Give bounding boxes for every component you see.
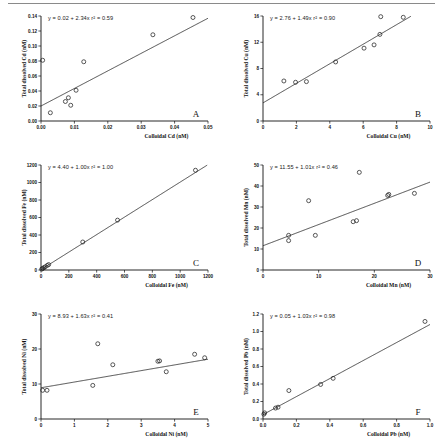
x-tick-label: 0.02 — [103, 125, 112, 130]
data-point — [287, 389, 291, 393]
panel-d: 010203040500102030y = 11.55 + 1.01x r² =… — [222, 149, 443, 298]
x-tick-label: 2 — [107, 423, 110, 428]
y-tick-label: 1.2 — [253, 312, 260, 317]
x-tick-label: 0.0 — [260, 423, 267, 428]
x-tick-label: 400 — [93, 274, 101, 279]
x-axis-title: Colloidal Ni (nM) — [145, 431, 187, 438]
y-tick-label: 0 — [256, 268, 259, 273]
regression-equation-label: y = 8.93 + 1.63x r² = 0.41 — [48, 313, 113, 319]
x-axis-title: Colloidal Mn (nM) — [366, 282, 411, 289]
x-tick-label: 0 — [40, 423, 43, 428]
x-tick-label: 4 — [173, 423, 176, 428]
y-axis-title: Total dissolved Cu (nM) — [243, 40, 250, 98]
y-tick-label: 16 — [254, 14, 260, 19]
scatter-plot-c: 0200400600800100012000200400600800100012… — [0, 149, 221, 298]
regression-equation-label: y = 11.55 + 1.01x r² = 0.46 — [270, 164, 338, 170]
data-point — [193, 168, 197, 172]
data-point — [307, 199, 311, 203]
y-tick-label: 12 — [254, 40, 260, 45]
panel-letter: E — [193, 407, 199, 417]
x-tick-label: 1200 — [203, 274, 214, 279]
data-point — [372, 43, 376, 47]
figure-container: 0.000.020.040.060.080.100.120.140.000.01… — [0, 0, 443, 448]
x-tick-label: 0.8 — [393, 423, 400, 428]
scatter-plot-d: 010203040500102030y = 11.55 + 1.01x r² =… — [222, 149, 443, 298]
y-tick-label: 0.10 — [28, 44, 37, 49]
x-tick-label: 0.4 — [327, 423, 334, 428]
regression-equation-label: y = 0.02 + 2.34x r² = 0.59 — [48, 15, 113, 21]
x-axis-title: Colloidal Cu (nM) — [367, 133, 411, 140]
y-tick-label: 0.6 — [253, 364, 260, 369]
panel-letter: D — [415, 258, 422, 268]
y-tick-label: 8 — [256, 66, 259, 71]
x-tick-label: 1000 — [175, 274, 186, 279]
y-tick-label: 0.00 — [28, 119, 37, 124]
data-point — [282, 79, 286, 83]
y-tick-label: 0.0 — [253, 417, 260, 422]
data-point — [313, 233, 317, 237]
y-tick-label: 800 — [29, 198, 37, 203]
axis-lines — [41, 314, 208, 419]
y-tick-label: 0.8 — [253, 347, 260, 352]
x-axis-title: Colloidal Fe (nM) — [145, 282, 188, 289]
axis-lines — [263, 165, 430, 270]
data-point — [304, 80, 308, 84]
x-tick-label: 3 — [140, 423, 143, 428]
x-tick-label: 1.0 — [427, 423, 434, 428]
x-tick-label: 5 — [207, 423, 210, 428]
x-tick-label: 20 — [372, 274, 378, 279]
regression-line — [263, 182, 430, 246]
x-tick-label: 10 — [427, 125, 433, 130]
data-point — [164, 370, 168, 374]
x-tick-label: 800 — [148, 274, 156, 279]
data-point — [412, 191, 416, 195]
regression-equation-label: y = 0.05 + 1.03x r² = 0.98 — [270, 313, 335, 319]
x-tick-label: 0.05 — [204, 125, 213, 130]
data-point — [357, 170, 361, 174]
data-point — [203, 356, 207, 360]
panel-letter: F — [415, 407, 420, 417]
x-tick-label: 0.03 — [137, 125, 146, 130]
y-tick-label: 50 — [254, 163, 260, 168]
scatter-plot-f: 0.00.20.40.60.81.01.20.00.20.40.60.81.0y… — [222, 298, 443, 447]
data-point — [63, 100, 67, 104]
y-tick-label: 1.0 — [253, 329, 260, 334]
y-tick-label: 40 — [254, 184, 260, 189]
scatter-plot-e: 0102030012345y = 8.93 + 1.63x r² = 0.41C… — [0, 298, 221, 447]
x-tick-label: 2 — [295, 125, 298, 130]
data-point — [45, 388, 49, 392]
x-tick-label: 0.00 — [37, 125, 46, 130]
y-axis-title: Total dissolved Pb (nM) — [243, 338, 250, 395]
data-point — [379, 15, 383, 19]
y-tick-label: 0.2 — [253, 399, 260, 404]
x-tick-label: 0 — [262, 125, 265, 130]
regression-equation-label: y = 2.76 + 1.49x r² = 0.90 — [270, 15, 335, 21]
x-tick-label: 30 — [427, 274, 433, 279]
scatter-plot-a: 0.000.020.040.060.080.100.120.140.000.01… — [0, 0, 221, 149]
y-tick-label: 0.4 — [253, 382, 260, 387]
regression-line — [263, 16, 411, 103]
y-tick-label: 0.08 — [28, 59, 37, 64]
x-tick-label: 0.2 — [293, 423, 300, 428]
y-tick-label: 4 — [256, 92, 259, 97]
y-tick-label: 200 — [29, 250, 37, 255]
y-tick-label: 0.02 — [28, 104, 37, 109]
data-point — [287, 239, 291, 243]
y-axis-title: Total dissolved Fe (nM) — [21, 189, 28, 245]
x-axis-title: Colloidal Cd (nM) — [145, 133, 189, 140]
regression-line — [263, 325, 430, 415]
y-tick-label: 30 — [254, 205, 260, 210]
regression-line — [41, 359, 208, 388]
data-point — [48, 111, 52, 115]
panel-a: 0.000.020.040.060.080.100.120.140.000.01… — [0, 0, 221, 149]
y-tick-label: 30 — [32, 312, 38, 317]
data-point — [362, 46, 366, 50]
data-point — [423, 319, 427, 323]
x-tick-label: 10 — [316, 274, 322, 279]
x-tick-label: 8 — [395, 125, 398, 130]
x-tick-label: 1 — [73, 423, 76, 428]
scatter-plot-b: 04812160246810y = 2.76 + 1.49x r² = 0.90… — [222, 0, 443, 149]
panel-letter: C — [193, 258, 199, 268]
data-point — [387, 192, 391, 196]
y-tick-label: 0.14 — [28, 14, 37, 19]
